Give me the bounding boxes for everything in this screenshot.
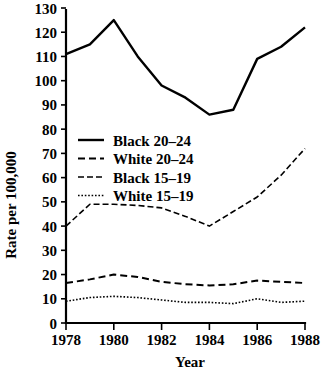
y-tick-label: 20 [42, 267, 57, 283]
series-line-white-20-24 [66, 275, 305, 286]
y-tick-labels: 0102030405060708090100110120130 [35, 1, 58, 332]
y-tick-label: 120 [35, 25, 58, 41]
y-tick-label: 30 [42, 243, 57, 259]
y-tick-label: 70 [42, 146, 57, 162]
series-line-white-15-19 [66, 296, 305, 303]
y-tick-label: 10 [42, 291, 57, 307]
y-tick-label: 90 [42, 97, 57, 113]
x-tick-label: 1984 [194, 332, 225, 348]
y-tick-label: 50 [42, 194, 57, 210]
y-tick-label: 0 [50, 316, 58, 332]
y-tick-label: 40 [42, 219, 57, 235]
y-tick-label: 110 [35, 49, 57, 65]
y-tick-label: 130 [35, 1, 58, 17]
x-tick-label: 1980 [99, 332, 129, 348]
y-tick-label: 60 [42, 170, 57, 186]
series-line-black-20-24 [66, 20, 305, 115]
legend-label-2: White 20–24 [113, 151, 194, 167]
legend: Black 20–24White 20–24Black 15–19White 1… [78, 133, 194, 205]
x-tick-label: 1986 [242, 332, 273, 348]
legend-label-3: Black 15–19 [113, 170, 191, 186]
legend-label-1: Black 20–24 [113, 133, 191, 149]
line-chart: 0102030405060708090100110120130 19781980… [0, 0, 324, 374]
x-axis-title: Year [175, 354, 205, 370]
y-tick-label: 100 [35, 73, 58, 89]
x-tick-labels: 197819801982198419861988 [51, 332, 320, 348]
y-axis-title: Rate per 100,000 [3, 151, 19, 259]
x-tick-label: 1988 [290, 332, 320, 348]
x-tick-label: 1982 [147, 332, 177, 348]
y-tick-label: 80 [42, 122, 57, 138]
legend-label-4: White 15–19 [113, 188, 193, 204]
chart-container: 0102030405060708090100110120130 19781980… [0, 0, 324, 374]
x-tick-label: 1978 [51, 332, 81, 348]
